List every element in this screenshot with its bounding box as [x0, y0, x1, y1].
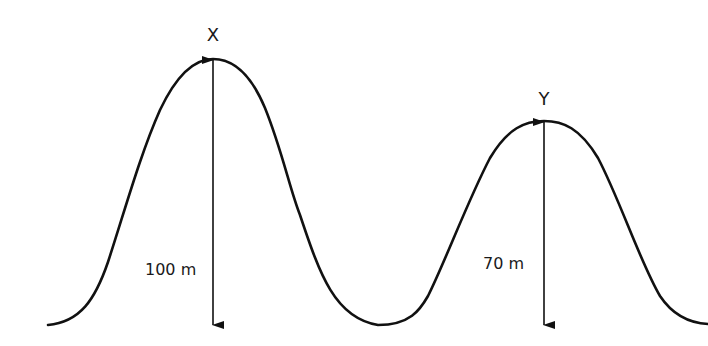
peak-y-height-label: 70 m: [483, 256, 524, 272]
terrain-curve: [48, 59, 708, 325]
peak-x-label: X: [207, 26, 219, 44]
peak-y-label: Y: [539, 90, 550, 108]
peak-x-height-label: 100 m: [145, 262, 196, 278]
hills-diagram: X Y 100 m 70 m: [0, 0, 708, 346]
hill-profile-svg: [0, 0, 708, 346]
